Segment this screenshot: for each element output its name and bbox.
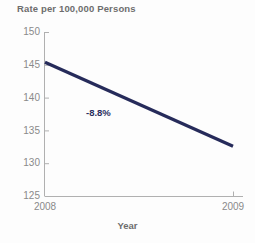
y-axis-label-135: 135	[14, 125, 40, 136]
y-axis-label-145: 145	[14, 59, 40, 70]
y-axis-label-130: 130	[14, 157, 40, 168]
x-axis-label-2008: 2008	[25, 201, 65, 212]
y-axis-label-125: 125	[14, 190, 40, 201]
x-axis-label-2009: 2009	[213, 201, 253, 212]
line-chart: Rate per 100,000 Persons 150 145 140 135…	[0, 0, 255, 243]
y-axis-label-150: 150	[14, 26, 40, 37]
y-axis-label-140: 140	[14, 92, 40, 103]
x-axis-title: Year	[0, 220, 255, 231]
series-change-annotation: -8.8%	[86, 107, 111, 118]
series-line-rate	[45, 62, 233, 146]
